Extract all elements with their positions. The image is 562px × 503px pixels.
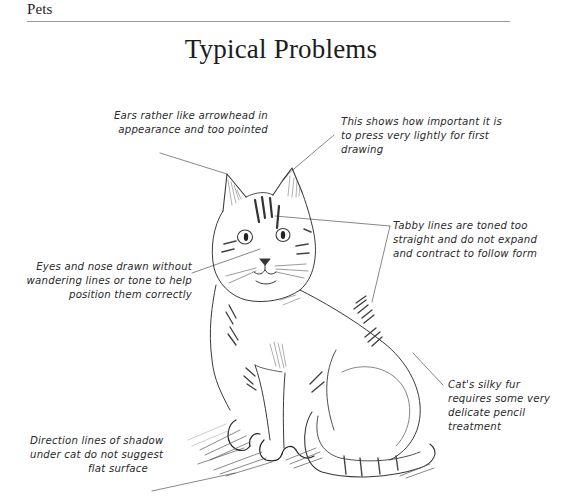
annotation-silky-fur: Cat's silky fur requires some very delic… [448,378,560,434]
annotation-shadow: Direction lines of shadow under cat do n… [30,434,148,476]
paws [228,420,314,461]
annotation-line: Tabby lines are toned too [393,219,558,233]
annotation-line: treatment [448,420,560,434]
nose [260,259,270,265]
annotation-line: appearance and too pointed [88,123,268,137]
leader-lines [152,135,443,491]
annotation-line: wandering lines or tone to help [20,274,192,288]
annotation-line: straight and do not expand [393,233,558,247]
annotation-light-pressure: This shows how important it is to press … [341,115,541,157]
annotation-line: position them correctly [20,288,192,302]
annotation-ears: Ears rather like arrowhead in appearance… [88,109,268,137]
shadow-hatching [198,430,434,478]
body-outline [210,285,230,410]
annotation-line: drawing [341,143,541,157]
annotation-line: Ears rather like arrowhead in [88,109,268,123]
annotation-line: and contract to follow form [393,247,558,261]
annotation-eyes-nose: Eyes and nose drawn without wandering li… [20,260,192,302]
annotation-line: This shows how important it is [341,115,541,129]
tail [305,412,435,477]
annotation-line: under cat do not suggest [30,448,148,462]
annotation-line: to press very lightly for first [341,129,541,143]
annotation-line: Cat's silky fur [448,378,560,392]
annotation-line: Eyes and nose drawn without [20,260,192,274]
annotation-line: requires some very [448,392,560,406]
annotation-line: flat surface [30,462,148,476]
annotation-tabby-lines: Tabby lines are toned too straight and d… [393,219,558,261]
annotation-line: Direction lines of shadow [30,434,148,448]
annotation-line: delicate pencil [448,406,560,420]
